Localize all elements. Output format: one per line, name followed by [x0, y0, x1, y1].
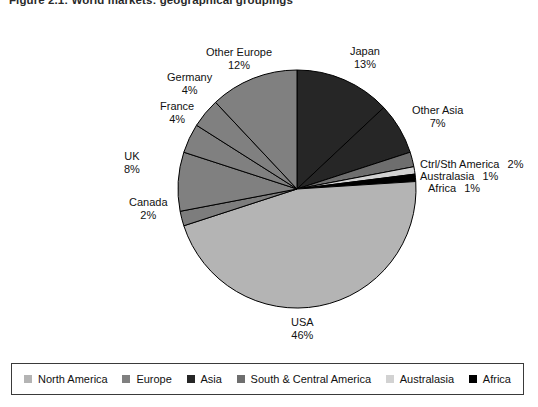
- pie-label-africa: Africa 1%: [428, 182, 480, 195]
- legend-swatch-asia-icon: [187, 375, 195, 383]
- pie-label-france-value: 4%: [160, 113, 194, 126]
- chart-legend: North America Europe Asia South & Centra…: [11, 363, 524, 395]
- pie-label-other-europe-value: 12%: [206, 59, 272, 72]
- pie-label-japan-name: Japan: [350, 45, 380, 58]
- legend-label-asia: Asia: [201, 373, 222, 385]
- pie-slice-group: [178, 70, 416, 308]
- pie-label-other-europe: Other Europe 12%: [206, 46, 272, 71]
- pie-label-africa-name: Africa: [428, 182, 456, 194]
- pie-label-ctrl-sth-america: Ctrl/Sth America 2%: [420, 158, 523, 171]
- pie-label-africa-value: 1%: [464, 182, 480, 194]
- legend-label-north-america: North America: [38, 373, 108, 385]
- pie-label-germany-value: 4%: [167, 84, 212, 97]
- pie-label-other-asia-name: Other Asia: [412, 104, 463, 117]
- legend-label-australasia: Australasia: [400, 373, 454, 385]
- pie-label-uk-value: 8%: [124, 163, 140, 176]
- pie-label-australasia-name: Australasia: [420, 170, 474, 182]
- legend-swatch-south-central-america-icon: [237, 375, 245, 383]
- legend-item-africa[interactable]: Africa: [469, 373, 511, 385]
- legend-swatch-europe-icon: [122, 375, 130, 383]
- pie-label-canada: Canada 2%: [129, 196, 168, 221]
- pie-label-japan: Japan 13%: [350, 45, 380, 70]
- pie-label-germany: Germany 4%: [167, 71, 212, 96]
- legend-item-north-america[interactable]: North America: [24, 373, 108, 385]
- pie-label-other-asia: Other Asia 7%: [412, 104, 463, 129]
- legend-item-asia[interactable]: Asia: [187, 373, 222, 385]
- pie-label-japan-value: 13%: [350, 58, 380, 71]
- pie-label-canada-name: Canada: [129, 196, 168, 209]
- pie-label-france-name: France: [160, 100, 194, 113]
- figure-title: Figure 2.1: World markets: geographical …: [9, 0, 293, 6]
- pie-label-france: France 4%: [160, 100, 194, 125]
- pie-label-other-asia-value: 7%: [412, 117, 463, 130]
- legend-item-europe[interactable]: Europe: [122, 373, 171, 385]
- legend-swatch-australasia-icon: [386, 375, 394, 383]
- legend-swatch-north-america-icon: [24, 375, 32, 383]
- pie-chart: Other Europe 12% Germany 4% France 4% UK…: [0, 8, 538, 348]
- legend-swatch-africa-icon: [469, 375, 477, 383]
- legend-label-africa: Africa: [483, 373, 511, 385]
- legend-label-south-central-america: South & Central America: [251, 373, 371, 385]
- pie-label-canada-value: 2%: [129, 209, 168, 222]
- pie-label-australasia: Australasia 1%: [420, 170, 498, 183]
- pie-label-usa-value: 46%: [291, 329, 314, 342]
- pie-label-uk-name: UK: [124, 150, 140, 163]
- legend-item-australasia[interactable]: Australasia: [386, 373, 454, 385]
- pie-label-usa: USA 46%: [291, 316, 314, 341]
- pie-label-germany-name: Germany: [167, 71, 212, 84]
- pie-label-usa-name: USA: [291, 316, 314, 329]
- pie-label-ctrl-sth-america-value: 2%: [508, 158, 524, 170]
- legend-label-europe: Europe: [136, 373, 171, 385]
- pie-label-uk: UK 8%: [124, 150, 140, 175]
- pie-label-other-europe-name: Other Europe: [206, 46, 272, 59]
- pie-label-ctrl-sth-america-name: Ctrl/Sth America: [420, 158, 499, 170]
- legend-item-south-central-america[interactable]: South & Central America: [237, 373, 371, 385]
- pie-label-australasia-value: 1%: [482, 170, 498, 182]
